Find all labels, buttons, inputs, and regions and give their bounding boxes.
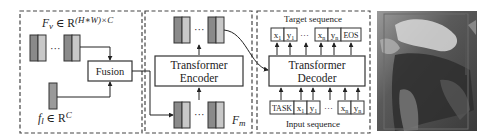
encoder-input-ellipsis: ··· bbox=[194, 109, 205, 120]
svg-text:TASK: TASK bbox=[272, 104, 292, 113]
text-feature-label: fl ∈ RC bbox=[38, 110, 73, 126]
memory-label: Fm bbox=[231, 114, 246, 128]
encoder-label-line1: Transformer bbox=[170, 59, 227, 71]
target-token-yn: yn bbox=[328, 28, 341, 41]
input-token-x1: x1 bbox=[294, 101, 307, 114]
encoder-input-token-block-1 bbox=[174, 102, 190, 128]
text-token-block bbox=[49, 83, 57, 109]
memory-ellipsis: ··· bbox=[194, 24, 205, 35]
fusion-label: Fusion bbox=[96, 66, 125, 77]
encoder-input-token-block-n bbox=[208, 102, 224, 128]
decoder-label-line1: Transformer bbox=[288, 59, 345, 71]
input-sequence-label: Input sequence bbox=[286, 119, 340, 129]
diagram-canvas: Fv ∈ R(H∗W)×C ··· Fusion fl ∈ RC bbox=[0, 0, 498, 140]
decoder-output-arrows bbox=[277, 43, 351, 55]
target-token-x1: x1 bbox=[271, 28, 284, 41]
target-token-xn: xn bbox=[315, 28, 328, 41]
visual-token-block-1 bbox=[30, 35, 46, 61]
visual-to-fusion-arrow bbox=[80, 47, 110, 60]
decoder-label-line2: Decoder bbox=[298, 72, 337, 84]
visual-ellipsis: ··· bbox=[50, 43, 61, 54]
example-photo bbox=[377, 11, 498, 131]
input-ellipsis: ··· bbox=[324, 103, 333, 113]
svg-text:EOS: EOS bbox=[343, 31, 358, 40]
input-token-task: TASK bbox=[270, 101, 294, 114]
visual-token-block-n bbox=[64, 35, 80, 61]
input-token-y1: y1 bbox=[307, 101, 320, 114]
fusion-panel: Fv ∈ R(H∗W)×C ··· Fusion fl ∈ RC bbox=[20, 11, 142, 133]
memory-token-block-n bbox=[208, 17, 224, 43]
decoder-input-arrows bbox=[281, 88, 358, 100]
target-token-y1: y1 bbox=[284, 28, 297, 41]
visual-feature-label: Fv ∈ R(H∗W)×C bbox=[41, 15, 114, 31]
encoder-label-line2: Encoder bbox=[180, 72, 218, 84]
input-token-yn: yn bbox=[351, 101, 364, 114]
decoder-panel: Target sequence x1 y1 ··· xn yn EOS bbox=[257, 11, 370, 133]
memory-token-block-1 bbox=[174, 17, 190, 43]
target-ellipsis: ··· bbox=[300, 30, 309, 40]
target-sequence-label: Target sequence bbox=[284, 14, 342, 24]
target-token-eos: EOS bbox=[341, 28, 361, 41]
text-to-fusion-arrow bbox=[57, 82, 110, 97]
input-token-xn: xn bbox=[338, 101, 351, 114]
